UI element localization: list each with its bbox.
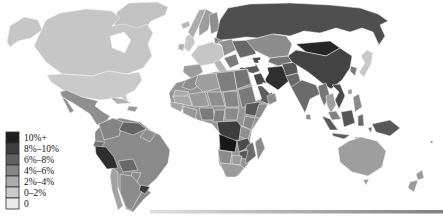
legend-item: 6%–8% <box>6 154 54 165</box>
world-choropleth-screenshot: 10%+ 8%–10% 6%–8% 4%–6% 2%–4% 0–2% 0 <box>0 0 443 219</box>
legend-item: 0 <box>6 198 29 209</box>
legend-label: 0–2% <box>24 188 46 198</box>
region-botswana <box>232 155 242 165</box>
legend-item: 8%–10% <box>6 143 59 154</box>
region-taiwan <box>348 89 352 94</box>
legend-label: 2%–4% <box>24 177 54 187</box>
region-sulawesi <box>358 114 364 126</box>
legend-swatch <box>6 176 19 187</box>
legend-label: 8%–10% <box>24 144 59 154</box>
region-sri-lanka <box>306 114 311 120</box>
legend-item: 2%–4% <box>6 176 54 187</box>
world-map: 10%+ 8%–10% 6%–8% 4%–6% 2%–4% 0–2% 0 <box>0 0 443 219</box>
region-nigeria <box>199 108 215 120</box>
legend-swatch <box>6 198 19 209</box>
legend-item: 4%–6% <box>6 165 54 176</box>
region-central-african-republic <box>225 108 239 120</box>
region-namibia <box>218 150 232 164</box>
legend-item: 10%+ <box>6 132 47 143</box>
legend-swatch <box>6 165 19 176</box>
legend-swatch <box>6 154 19 165</box>
region-chad <box>223 91 239 107</box>
legend-label: 10%+ <box>24 133 47 143</box>
region-cameroon <box>213 110 225 122</box>
legend-label: 6%–8% <box>24 155 54 165</box>
legend-swatch <box>6 132 19 143</box>
legend-swatch <box>6 143 19 154</box>
legend-label: 0 <box>24 199 29 209</box>
legend-swatch <box>6 187 19 198</box>
legend-label: 4%–6% <box>24 166 54 176</box>
legend-item: 0–2% <box>6 187 46 198</box>
bottom-shadow-line <box>150 210 443 214</box>
